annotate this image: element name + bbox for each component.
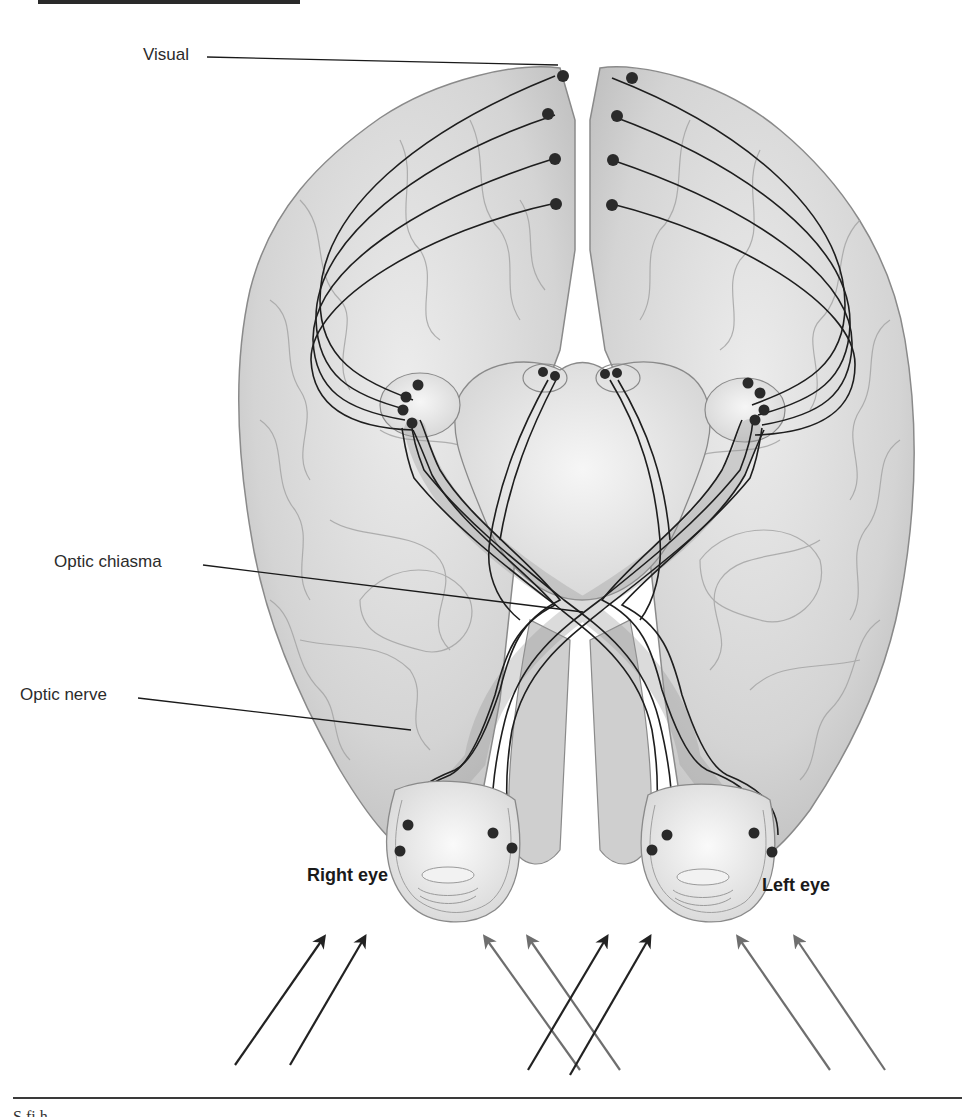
caption-fragment: S fi h: [13, 1108, 48, 1117]
left-eyeball: [641, 784, 777, 922]
label-optic-nerve: Optic nerve: [20, 685, 107, 705]
label-left-eye: Left eye: [762, 875, 830, 896]
light-ray-arrows: [235, 940, 885, 1075]
caption-divider: [13, 1097, 962, 1099]
label-right-eye: Right eye: [307, 865, 388, 886]
label-visual: Visual: [143, 45, 189, 65]
label-optic-chiasma: Optic chiasma: [54, 552, 162, 572]
right-eyeball: [387, 781, 520, 922]
